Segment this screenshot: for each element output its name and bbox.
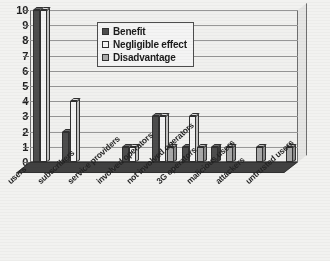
bar-front xyxy=(40,10,47,162)
y-axis-tick-mark xyxy=(23,116,29,117)
legend-item-negligible-effect: Negligible effect xyxy=(102,39,187,50)
bar-side xyxy=(293,144,296,162)
legend-swatch-disadvantage xyxy=(102,54,109,61)
x-axis-label-users: users xyxy=(5,164,28,186)
bar xyxy=(197,147,204,162)
bar-front xyxy=(256,147,263,162)
bar-front xyxy=(197,147,204,162)
bar-chart: 012345678910 userssubscribersservice pro… xyxy=(0,0,330,261)
y-axis-tick-mark xyxy=(23,25,29,26)
y-axis-tick-mark xyxy=(23,147,29,148)
chart-legend: Benefit Negligible effect Disadvantage xyxy=(97,22,194,67)
y-axis-tick-mark xyxy=(23,10,29,11)
bar-side xyxy=(77,99,80,162)
bar-group xyxy=(33,10,56,162)
legend-label-disadvantage: Disadvantage xyxy=(113,52,176,63)
bar xyxy=(40,10,47,162)
y-axis-tick-mark xyxy=(23,132,29,133)
y-axis-tick-mark xyxy=(23,86,29,87)
bar-group xyxy=(241,10,264,162)
legend-item-disadvantage: Disadvantage xyxy=(102,52,187,63)
bar-side xyxy=(47,8,50,162)
legend-label-negligible-effect: Negligible effect xyxy=(113,39,187,50)
y-axis-tick-mark xyxy=(23,40,29,41)
plot-right-wall xyxy=(298,3,307,162)
y-axis-tick-mark xyxy=(23,101,29,102)
legend-label-benefit: Benefit xyxy=(113,26,146,37)
bar xyxy=(33,10,40,162)
bar-front xyxy=(33,10,40,162)
legend-swatch-benefit xyxy=(102,28,109,35)
legend-item-benefit: Benefit xyxy=(102,26,187,37)
bar xyxy=(256,147,263,162)
bar-group xyxy=(62,10,85,162)
y-axis-tick-mark xyxy=(23,56,29,57)
legend-swatch-negligible-effect xyxy=(102,41,109,48)
y-axis-tick-mark xyxy=(23,71,29,72)
